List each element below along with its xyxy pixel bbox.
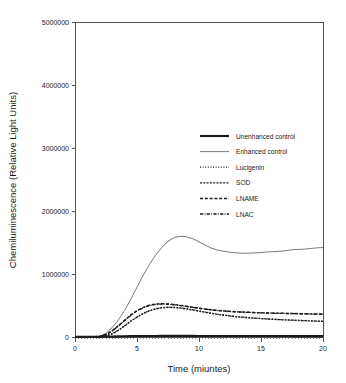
series-line-unenhanced-control: [75, 336, 323, 337]
x-tick-label: 15: [257, 345, 265, 352]
y-tick-label: 4000000: [42, 82, 69, 89]
legend-label-sod: SOD: [236, 179, 251, 186]
chart-background: [0, 0, 346, 383]
legend-label-lnac: LNAC: [236, 211, 254, 218]
chart-figure: 010000002000000300000040000005000000 051…: [0, 0, 346, 383]
x-axis-title: Time (miuntes): [168, 363, 231, 374]
y-axis-title: Chemiluminescence (Relative Light Units): [7, 92, 18, 268]
legend-label-unenhanced-control: Unenhanced control: [236, 133, 296, 140]
x-tick-label: 0: [73, 345, 77, 352]
chemiluminescence-line-chart: 010000002000000300000040000005000000 051…: [0, 0, 346, 383]
x-tick-label: 20: [319, 345, 327, 352]
y-tick-label: 3000000: [42, 145, 69, 152]
y-tick-label: 5000000: [42, 19, 69, 26]
x-tick-label: 10: [195, 345, 203, 352]
y-tick-label: 2000000: [42, 208, 69, 215]
legend-label-enhanced-control: Enhanced control: [236, 148, 288, 155]
y-tick-label: 0: [65, 334, 69, 341]
y-tick-label: 1000000: [42, 271, 69, 278]
legend-label-lname: LNAME: [236, 195, 259, 202]
x-tick-label: 5: [135, 345, 139, 352]
legend-label-lucigenin: Lucigenin: [236, 164, 265, 172]
